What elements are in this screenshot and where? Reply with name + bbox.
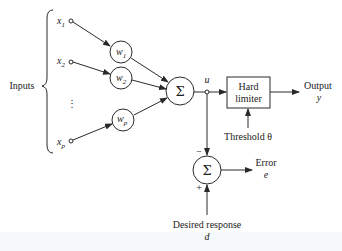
weight-w2: w2	[110, 67, 132, 89]
arrow-x1-w1	[73, 22, 110, 46]
arrow-x2-w2	[73, 62, 110, 74]
summing-junction: Σ	[166, 77, 194, 105]
input-x1-label: x1	[56, 15, 65, 29]
perceptron-diagram: Inputs x1 x2 ⋮ xp w1 w2 wp Σ u	[0, 0, 342, 251]
input-x1-terminal	[69, 19, 73, 23]
arrow-wp-sum	[134, 98, 167, 115]
inputs-label: Inputs	[10, 80, 35, 91]
error-sigma-symbol: Σ	[202, 163, 211, 178]
threshold-label: Threshold θ	[224, 131, 272, 142]
minus-sign: −	[196, 146, 202, 157]
input-x2-label: x2	[56, 55, 65, 69]
arrow-xp-wp	[73, 124, 112, 140]
hard-limiter-label-line2: limiter	[235, 93, 262, 104]
output-label: Output	[304, 80, 332, 91]
error-label: Error	[255, 157, 277, 168]
arrow-w2-sum	[132, 80, 166, 89]
u-node	[205, 90, 209, 94]
error-summing-junction: Σ	[193, 156, 221, 184]
hard-limiter-label-line1: Hard	[239, 81, 259, 92]
weight-w1: w1	[110, 41, 132, 63]
desired-label: Desired response	[173, 219, 242, 230]
input-xp: xp	[56, 136, 73, 150]
error-symbol: e	[264, 169, 269, 180]
input-x1: x1	[56, 15, 73, 29]
plus-sign: +	[196, 182, 202, 193]
input-xp-label: xp	[56, 136, 65, 150]
output-symbol: y	[316, 92, 322, 103]
background-band	[0, 232, 342, 251]
input-xp-terminal	[69, 139, 73, 143]
hard-limiter: Hard limiter	[227, 77, 270, 108]
u-label: u	[205, 74, 210, 85]
inputs-brace	[42, 10, 53, 153]
input-x2: x2	[56, 55, 73, 69]
inputs-ellipsis: ⋮	[67, 98, 77, 109]
weight-wp: wp	[112, 109, 134, 131]
arrow-w1-sum	[131, 58, 168, 82]
input-x2-terminal	[69, 60, 73, 64]
sigma-symbol: Σ	[175, 84, 184, 99]
